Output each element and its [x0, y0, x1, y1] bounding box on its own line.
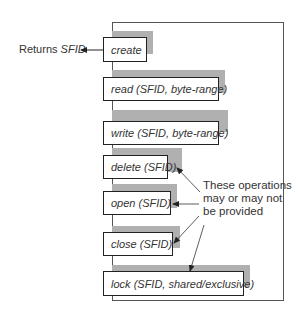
arrow-to-delete	[177, 168, 200, 192]
arrow-to-close	[174, 216, 199, 243]
arrows	[0, 0, 299, 322]
arrow-to-lock	[190, 225, 204, 271]
